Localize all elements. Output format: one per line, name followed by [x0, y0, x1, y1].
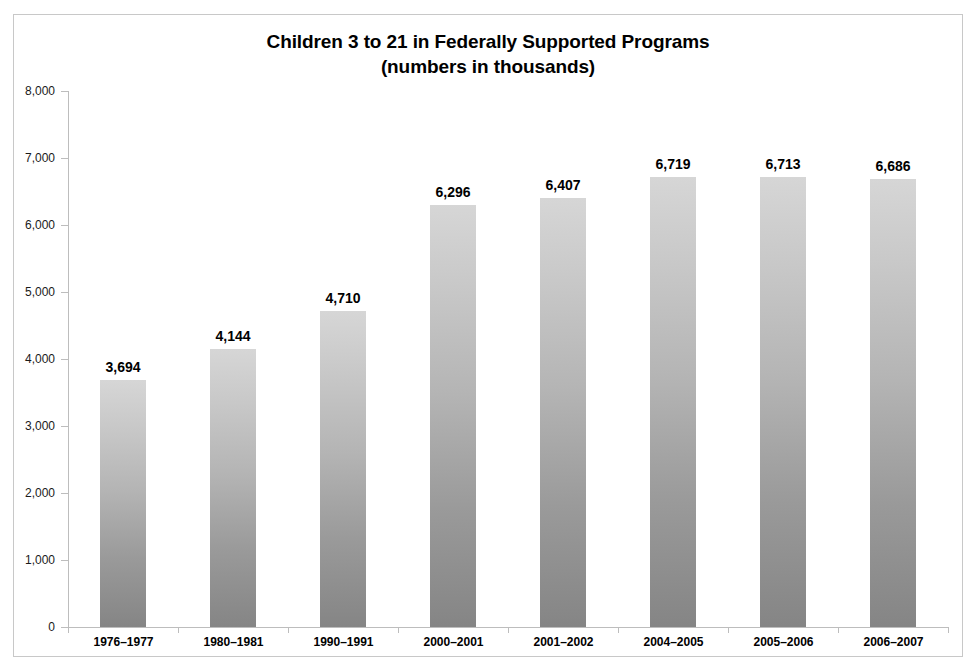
- y-axis-tick: [61, 158, 68, 159]
- y-axis-tick: [61, 292, 68, 293]
- chart-subtitle: (numbers in thousands): [14, 54, 962, 79]
- bar: [760, 177, 806, 627]
- y-axis-tick: [61, 225, 68, 226]
- bar-value-label: 3,694: [68, 359, 178, 375]
- bar: [870, 179, 916, 627]
- x-axis-tick: [508, 627, 509, 633]
- y-axis-tick: [61, 91, 68, 92]
- y-axis-tick-label: 7,000: [3, 151, 55, 165]
- y-axis-tick: [61, 426, 68, 427]
- y-axis-tick-label: 2,000: [3, 486, 55, 500]
- x-axis-category-label: 2000–2001: [398, 635, 509, 649]
- y-axis-tick-label: 1,000: [3, 553, 55, 567]
- y-axis-tick-label: 4,000: [3, 352, 55, 366]
- bar-value-label: 6,407: [508, 177, 618, 193]
- x-axis-tick: [618, 627, 619, 633]
- chart-title: Children 3 to 21 in Federally Supported …: [14, 29, 962, 79]
- bar-value-label: 6,296: [398, 184, 508, 200]
- bar-value-label: 6,686: [838, 158, 948, 174]
- bar: [210, 349, 256, 627]
- x-axis-category-label: 1976–1977: [68, 635, 179, 649]
- bar: [540, 198, 586, 627]
- x-axis-category-label: 2004–2005: [618, 635, 729, 649]
- x-axis-category-label: 2006–2007: [838, 635, 949, 649]
- chart-frame: Children 3 to 21 in Federally Supported …: [13, 14, 963, 657]
- x-axis-category-label: 1980–1981: [178, 635, 289, 649]
- bar-value-label: 4,144: [178, 328, 288, 344]
- x-axis-tick: [728, 627, 729, 633]
- y-axis-tick-label: 3,000: [3, 419, 55, 433]
- bar: [430, 205, 476, 627]
- x-axis-tick: [288, 627, 289, 633]
- bar: [100, 380, 146, 627]
- x-axis-tick: [178, 627, 179, 633]
- y-axis-tick: [61, 359, 68, 360]
- y-axis-tick: [61, 627, 68, 628]
- x-axis-tick: [398, 627, 399, 633]
- bar-value-label: 6,719: [618, 156, 728, 172]
- x-axis-category-label: 2005–2006: [728, 635, 839, 649]
- bar: [650, 177, 696, 627]
- x-axis-line: [62, 627, 948, 628]
- y-axis-tick-label: 0: [3, 620, 55, 634]
- x-axis-tick: [838, 627, 839, 633]
- y-axis-tick: [61, 493, 68, 494]
- y-axis-tick-label: 8,000: [3, 84, 55, 98]
- x-axis-tick: [68, 627, 69, 633]
- x-axis-category-label: 2001–2002: [508, 635, 619, 649]
- bar: [320, 311, 366, 627]
- x-axis-category-label: 1990–1991: [288, 635, 399, 649]
- y-axis-tick-label: 6,000: [3, 218, 55, 232]
- chart-title-line1: Children 3 to 21 in Federally Supported …: [267, 31, 710, 52]
- bar-value-label: 6,713: [728, 156, 838, 172]
- y-axis-tick: [61, 560, 68, 561]
- x-axis-tick: [948, 627, 949, 633]
- y-axis-tick-label: 5,000: [3, 285, 55, 299]
- bar-value-label: 4,710: [288, 290, 398, 306]
